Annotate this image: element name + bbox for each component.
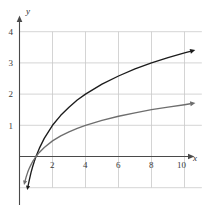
y-tick-label: 1 — [9, 121, 14, 131]
y-axis-label: y — [25, 6, 30, 16]
x-tick-label: 2 — [50, 160, 55, 170]
plot-figure: 2468101234 x y — [0, 0, 204, 208]
y-tick-label: 2 — [9, 89, 14, 99]
x-axis-label: x — [192, 153, 197, 163]
x-tick-label: 8 — [149, 160, 154, 170]
plot-canvas: 2468101234 x y — [0, 0, 204, 208]
y-tick-label: 3 — [9, 58, 14, 68]
x-tick-label: 10 — [177, 160, 187, 170]
y-tick-label: 4 — [9, 27, 14, 37]
x-tick-label: 6 — [116, 160, 121, 170]
x-tick-label: 4 — [83, 160, 88, 170]
